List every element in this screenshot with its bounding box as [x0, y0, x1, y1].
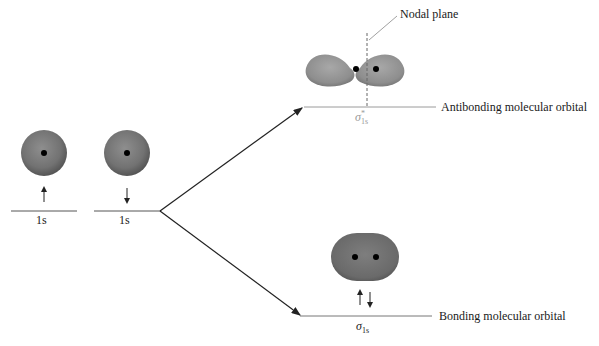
- antibonding-symbol: σ*1s: [355, 110, 368, 126]
- orbital-label-text: 1s: [119, 213, 130, 227]
- atomic-orbital-right: [104, 130, 150, 176]
- arrow-to-antibonding: [160, 108, 302, 211]
- subscript-1s: 1s: [361, 118, 368, 126]
- bonding-orbital-shape: [331, 233, 399, 281]
- atomic-orbital-right-label: 1s: [119, 213, 130, 228]
- antibonding-orbital-shape: [306, 54, 405, 86]
- diagram-canvas: [0, 0, 599, 346]
- nodal-plane-pointer: [369, 16, 397, 40]
- atomic-orbital-left: [21, 130, 67, 176]
- arrow-to-bonding: [160, 211, 300, 315]
- bonding-description: Bonding molecular orbital: [439, 309, 566, 324]
- nodal-plane-label: Nodal plane: [400, 7, 458, 22]
- subscript-1s: 1s: [362, 326, 369, 335]
- atomic-orbital-left-label: 1s: [36, 213, 47, 228]
- orbital-label-text: 1s: [36, 213, 47, 227]
- bonding-symbol: σ1s: [356, 319, 369, 335]
- antibonding-description: Antibonding molecular orbital: [441, 100, 587, 115]
